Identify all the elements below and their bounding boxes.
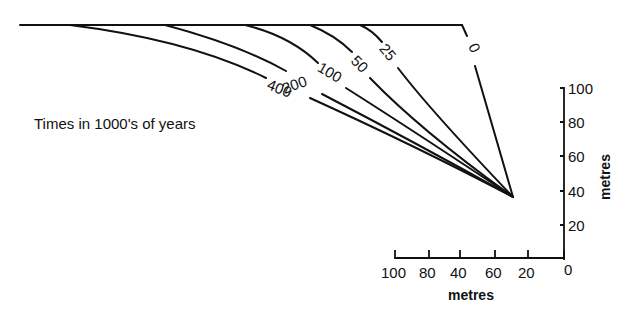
v-tick-60: 60	[568, 148, 585, 165]
isochron-25-line	[360, 25, 382, 42]
isochron-50-line-lower	[370, 78, 513, 197]
isochron-label-100: 100	[315, 58, 345, 85]
v-tick-100: 100	[568, 80, 593, 97]
v-tick-80: 80	[568, 114, 585, 131]
h-tick-100: 100	[381, 264, 406, 281]
horizontal-axis: 100 80 40 60 20 metres	[381, 250, 564, 303]
vertical-axis: 100 80 60 40 20 0 metres	[560, 80, 613, 278]
h-tick-40: 40	[450, 264, 467, 281]
h-tick-80: 80	[419, 264, 436, 281]
isochron-label-0: 0	[465, 40, 484, 55]
v-tick-40: 40	[568, 183, 585, 200]
v-tick-20: 20	[568, 217, 585, 234]
profile-diagram: 0 25 50 100 200 400 Times in 1000's of y…	[0, 0, 636, 323]
isochron-100-line-lower	[346, 88, 513, 197]
horizontal-axis-label: metres	[448, 287, 494, 303]
origin-tick-0: 0	[564, 261, 572, 278]
caption-text: Times in 1000's of years	[34, 115, 196, 132]
vertical-axis-label: metres	[597, 154, 613, 200]
h-tick-20: 20	[518, 264, 535, 281]
h-tick-60: 60	[485, 264, 502, 281]
isochron-0-line	[462, 25, 467, 36]
isochron-label-25: 25	[376, 40, 400, 64]
isochron-50-line	[310, 25, 352, 52]
isochron-400-line	[70, 25, 266, 78]
isochron-400-line-lower	[310, 98, 513, 197]
isochron-label-50: 50	[348, 52, 372, 76]
isochron-100-line	[245, 25, 318, 63]
